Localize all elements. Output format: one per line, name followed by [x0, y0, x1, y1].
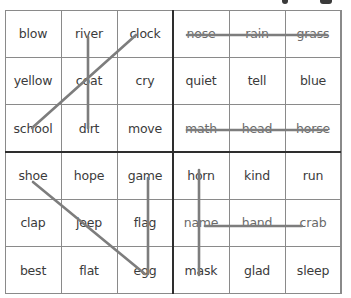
partial-title-glyph: [320, 0, 332, 4]
word-cell[interactable]: move: [117, 104, 174, 152]
word-cell[interactable]: horn: [173, 152, 230, 200]
word-cell[interactable]: mask: [173, 246, 230, 294]
word-cell[interactable]: kind: [229, 152, 286, 200]
word-cell[interactable]: clap: [5, 199, 62, 247]
word-cell[interactable]: blow: [5, 10, 62, 58]
word-cell[interactable]: nose: [173, 10, 230, 58]
word-cell[interactable]: game: [117, 152, 174, 200]
word-cell[interactable]: flag: [117, 199, 174, 247]
tic-tac-toe-word-board: blow river clock yellow coat cry school …: [5, 10, 341, 294]
word-cell[interactable]: jeep: [61, 199, 118, 247]
word-cell[interactable]: math: [173, 104, 230, 152]
quadrant-top-left: blow river clock yellow coat cry school …: [5, 10, 173, 152]
quadrant-divider-horizontal: [5, 151, 341, 153]
word-cell[interactable]: blue: [285, 57, 342, 105]
word-cell[interactable]: hope: [61, 152, 118, 200]
word-cell[interactable]: tell: [229, 57, 286, 105]
word-cell[interactable]: yellow: [5, 57, 62, 105]
word-cell[interactable]: run: [285, 152, 342, 200]
word-cell[interactable]: name: [173, 199, 230, 247]
word-cell[interactable]: rain: [229, 10, 286, 58]
word-cell[interactable]: best: [5, 246, 62, 294]
word-cell[interactable]: glad: [229, 246, 286, 294]
word-cell[interactable]: river: [61, 10, 118, 58]
word-cell[interactable]: sleep: [285, 246, 342, 294]
partial-title-glyph: [282, 0, 288, 4]
word-cell[interactable]: grass: [285, 10, 342, 58]
word-cell[interactable]: horse: [285, 104, 342, 152]
word-cell[interactable]: school: [5, 104, 62, 152]
quadrant-bottom-left: shoe hope game clap jeep flag best flat …: [5, 152, 173, 294]
word-cell[interactable]: quiet: [173, 57, 230, 105]
word-cell[interactable]: clock: [117, 10, 174, 58]
word-cell[interactable]: head: [229, 104, 286, 152]
word-cell[interactable]: shoe: [5, 152, 62, 200]
word-cell[interactable]: cry: [117, 57, 174, 105]
word-cell[interactable]: dirt: [61, 104, 118, 152]
quadrant-top-right: nose rain grass quiet tell blue math hea…: [173, 10, 341, 152]
word-cell[interactable]: coat: [61, 57, 118, 105]
word-cell[interactable]: hand: [229, 199, 286, 247]
word-cell[interactable]: flat: [61, 246, 118, 294]
word-cell[interactable]: crab: [285, 199, 342, 247]
quadrant-bottom-right: horn kind run name hand crab mask glad s…: [173, 152, 341, 294]
word-cell[interactable]: egg: [117, 246, 174, 294]
